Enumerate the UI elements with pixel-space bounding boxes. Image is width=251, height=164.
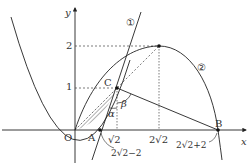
angle-beta-label: β	[120, 98, 127, 109]
point-peak	[157, 44, 161, 48]
B-value-label: 2√2+2	[176, 140, 206, 150]
curve-label-1: ①	[126, 17, 135, 28]
point-A	[98, 128, 102, 132]
point-label-C: C	[104, 77, 112, 88]
x-axis-label: x	[241, 136, 247, 147]
line-CB	[117, 88, 218, 130]
origin-label: O	[64, 132, 72, 143]
leader-B	[209, 133, 217, 142]
y-tick-2: 2	[66, 40, 72, 51]
parabola-curve	[11, 17, 130, 140]
x-tick-2root2: 2√2	[149, 134, 168, 145]
point-label-B: B	[215, 118, 222, 129]
curve-label-2: ②	[197, 62, 206, 73]
y-tick-1: 1	[66, 81, 72, 92]
point-label-A: A	[87, 132, 96, 143]
angle-alpha-label: α	[108, 108, 115, 119]
point-C	[115, 86, 119, 90]
A-value-label: 2√2−2	[111, 148, 141, 158]
diagram-canvas: y x O 1 2 √2 2√2 ① ② C A B α β 2√2−2 2√2…	[0, 0, 251, 164]
x-tick-root2: √2	[108, 134, 121, 145]
y-axis-label: y	[64, 7, 71, 18]
